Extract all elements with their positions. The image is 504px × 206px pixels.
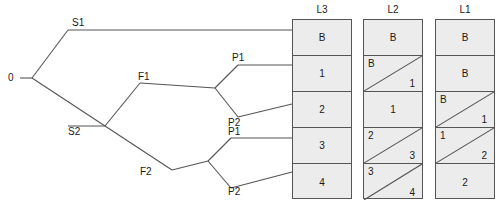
- column-header-l3: L3: [292, 4, 352, 15]
- node-label-p1-upper: P1: [232, 52, 244, 63]
- cell-value: 4: [319, 177, 325, 188]
- node-label-root: 0: [8, 72, 14, 83]
- diagram-root: 0 S1 S2 F1 F2 P1 P2 P1 P2 L3 L2 L1 B 1 2…: [0, 0, 504, 206]
- cell-value: 2: [462, 177, 468, 188]
- cell-value-bottom-right: 4: [409, 187, 415, 198]
- edge-s2-f1: [105, 83, 140, 126]
- cell-value: B: [390, 32, 397, 43]
- cell-value: 2: [319, 104, 325, 115]
- cell-value: B: [462, 68, 469, 79]
- cell-l1-2: B: [436, 56, 494, 92]
- node-label-s2: S2: [68, 126, 80, 137]
- edge-f1-p2: [215, 88, 238, 117]
- cell-l2-2: B 1: [364, 56, 422, 92]
- cell-l3-1: B: [293, 20, 351, 56]
- cell-value-top-left: 3: [368, 166, 374, 177]
- edge-root-s1: [32, 30, 68, 78]
- cell-value: 3: [319, 140, 325, 151]
- cell-value-top-left: 1: [440, 130, 446, 141]
- cell-value-bottom-right: 1: [481, 114, 487, 125]
- cell-l2-4: 2 3: [364, 128, 422, 164]
- cell-l3-5: 4: [293, 164, 351, 200]
- cell-l3-2: 1: [293, 56, 351, 92]
- cell-value-bottom-right: 1: [409, 78, 415, 89]
- edge-f1-p1: [215, 65, 238, 88]
- node-label-s1: S1: [72, 17, 84, 28]
- cell-value-top-left: B: [368, 58, 375, 69]
- column-l2: B B 1 1 2 3 3 4: [363, 19, 423, 199]
- column-l1: B B B 1 1 2 2: [435, 19, 495, 199]
- node-label-f1: F1: [138, 71, 150, 82]
- cell-value: B: [462, 32, 469, 43]
- cell-value-bottom-right: 2: [481, 150, 487, 161]
- cell-l3-4: 3: [293, 128, 351, 164]
- cell-l2-5: 3 4: [364, 164, 422, 200]
- cell-l3-3: 2: [293, 92, 351, 128]
- edge-root-s2: [32, 78, 105, 126]
- column-header-l2: L2: [363, 4, 423, 15]
- cell-value: B: [319, 32, 326, 43]
- edge-f2-p1: [208, 138, 231, 161]
- cell-l2-3: 1: [364, 92, 422, 128]
- cell-l1-1: B: [436, 20, 494, 56]
- edge-f2-run: [172, 161, 208, 170]
- cell-value-top-left: 2: [368, 130, 374, 141]
- cell-l2-1: B: [364, 20, 422, 56]
- cell-value-top-left: B: [440, 94, 447, 105]
- tree-edges: [0, 0, 504, 206]
- cell-value: 1: [390, 104, 396, 115]
- node-label-f2: F2: [140, 166, 152, 177]
- cell-l1-3: B 1: [436, 92, 494, 128]
- cell-value-bottom-right: 3: [409, 150, 415, 161]
- cell-l1-5: 2: [436, 164, 494, 200]
- edge-s2-f2: [105, 126, 172, 170]
- node-label-p1-lower: P1: [228, 126, 240, 137]
- node-label-p2-lower: P2: [228, 186, 240, 197]
- column-l3: B 1 2 3 4: [292, 19, 352, 199]
- cell-l1-4: 1 2: [436, 128, 494, 164]
- cell-value: 1: [319, 68, 325, 79]
- column-header-l1: L1: [435, 4, 495, 15]
- edge-leaf-3: [238, 104, 292, 117]
- edge-f2-p2: [208, 161, 231, 188]
- edge-f1-run: [140, 83, 215, 88]
